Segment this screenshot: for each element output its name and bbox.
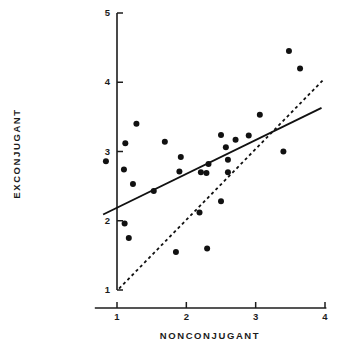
- data-point: [204, 245, 210, 251]
- data-point: [218, 132, 224, 138]
- data-point: [286, 48, 292, 54]
- data-point: [206, 161, 212, 167]
- data-point: [218, 198, 224, 204]
- plot-canvas: [0, 0, 340, 347]
- data-point: [197, 209, 203, 215]
- y-tick-label: 3: [96, 147, 110, 157]
- x-tick-label: 2: [179, 312, 193, 322]
- data-point: [203, 170, 209, 176]
- data-point: [225, 169, 231, 175]
- data-point: [178, 154, 184, 160]
- data-point: [280, 149, 286, 155]
- axes-group: [95, 13, 327, 308]
- data-point: [103, 158, 109, 164]
- data-point: [223, 144, 229, 150]
- data-point: [257, 112, 263, 118]
- x-axis-title: NONCONJUGANT: [130, 330, 290, 341]
- data-point: [225, 157, 231, 163]
- y-axis-title: EXCONJUGANT: [11, 106, 22, 202]
- data-point: [126, 235, 132, 241]
- data-point: [233, 137, 239, 143]
- data-point: [121, 167, 127, 173]
- scatter-plot-figure: 12345 1234 EXCONJUGANT NONCONJUGANT: [0, 0, 340, 347]
- y-tick-label: 2: [96, 216, 110, 226]
- y-tick-label: 1: [96, 285, 110, 295]
- x-tick-label: 3: [249, 312, 263, 322]
- data-point: [133, 121, 139, 127]
- data-point: [122, 140, 128, 146]
- data-point: [246, 133, 252, 139]
- x-tick-label: 1: [110, 312, 124, 322]
- y-tick-label: 4: [96, 77, 110, 87]
- data-point: [151, 188, 157, 194]
- reference-line-dashed: [119, 79, 324, 289]
- data-point: [122, 221, 128, 227]
- data-point: [297, 65, 303, 71]
- y-tick-label: 5: [96, 8, 110, 18]
- trend-lines-group: [103, 79, 324, 289]
- x-tick-label: 4: [318, 312, 332, 322]
- data-point: [162, 139, 168, 145]
- data-point: [173, 249, 179, 255]
- data-point: [176, 169, 182, 175]
- data-point: [130, 181, 136, 187]
- data-point: [198, 169, 204, 175]
- data-points-group: [103, 48, 303, 255]
